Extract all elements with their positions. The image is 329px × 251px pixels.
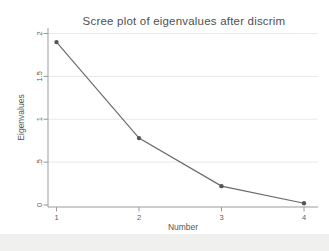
x-tick-label: 1	[54, 213, 58, 222]
data-point	[219, 184, 223, 188]
page-bottom-margin	[0, 234, 329, 251]
data-point	[137, 136, 141, 140]
y-tick-label: 2	[35, 31, 44, 35]
data-point	[54, 40, 58, 44]
y-tick-label: 1.5	[35, 71, 44, 81]
eigenvalue-line	[57, 42, 305, 203]
x-tick-label: 3	[219, 213, 223, 222]
x-tick-label: 2	[137, 213, 141, 222]
y-axis-title: Eigenvalues	[16, 94, 26, 140]
y-tick-label: 0	[35, 203, 44, 207]
scree-plot-figure: Scree plot of eigenvalues after discrim …	[0, 0, 329, 251]
y-tick-label: .5	[35, 159, 44, 165]
data-point	[302, 201, 306, 205]
scree-plot-chart: 0.511.521234EigenvaluesNumber	[0, 0, 329, 251]
x-axis-title: Number	[168, 222, 198, 232]
y-tick-label: 1	[35, 117, 44, 121]
x-tick-label: 4	[302, 213, 306, 222]
